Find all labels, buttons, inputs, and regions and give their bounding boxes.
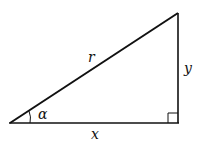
hypotenuse-line [10,13,178,123]
angle-arc [29,111,30,123]
hypotenuse-label: r [88,49,96,65]
horizontal-leg-label: x [91,126,99,142]
right-angle-marker [168,113,178,123]
angle-label: α [38,106,48,122]
right-triangle-diagram: r y x α [0,0,202,143]
vertical-leg-label: y [183,60,193,76]
